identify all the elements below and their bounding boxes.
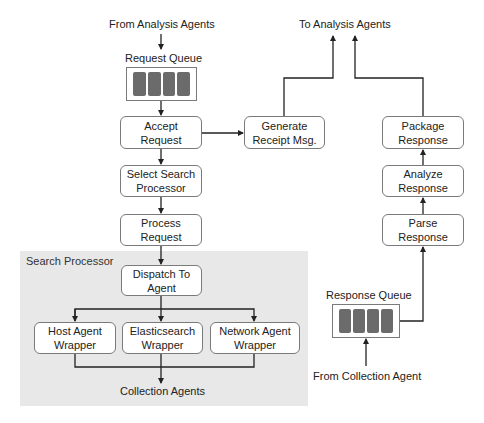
architecture-diagram: Search Processor From Analysis Agents To… — [0, 0, 484, 423]
connector-lines — [0, 0, 484, 423]
